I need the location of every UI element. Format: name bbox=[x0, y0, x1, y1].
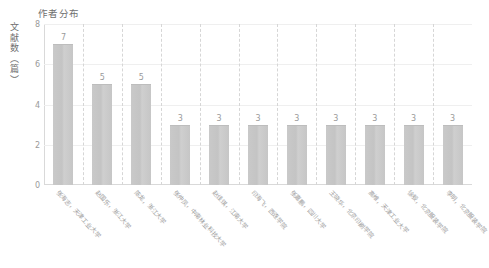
bar-value-label: 3 bbox=[178, 114, 183, 123]
y-tick-label: 6 bbox=[35, 60, 40, 69]
bar-slot: 3 bbox=[316, 24, 355, 185]
plot-area: 02468 75533333333 bbox=[44, 24, 472, 185]
x-axis-labels: 张海志，天津工业大学赵国乐，浙江大学陈龙，浙江大学张仲凤，中南林业科技大学赵佳琪… bbox=[44, 186, 472, 266]
bar-value-label: 3 bbox=[411, 114, 416, 123]
bar-value-label: 5 bbox=[139, 73, 144, 82]
bar-value-label: 3 bbox=[333, 114, 338, 123]
bar-value-label: 3 bbox=[294, 114, 299, 123]
bar[interactable] bbox=[365, 125, 385, 185]
x-tick-label: 李明，北京服装学院 bbox=[444, 188, 489, 235]
bar[interactable] bbox=[209, 125, 229, 185]
y-axis-title-text: 文献数（篇） bbox=[10, 22, 19, 85]
y-tick-label: 0 bbox=[35, 181, 40, 190]
x-tick-label: 赵佳琪，江南大学 bbox=[210, 188, 250, 230]
y-tick-label: 8 bbox=[35, 20, 40, 29]
y-tick-label: 2 bbox=[35, 140, 40, 149]
bar[interactable] bbox=[248, 125, 268, 185]
bar-slot: 5 bbox=[122, 24, 161, 185]
bar-value-label: 7 bbox=[61, 33, 66, 42]
bar-value-label: 3 bbox=[450, 114, 455, 123]
x-tick-label: 印海飞，西连学院 bbox=[249, 188, 289, 230]
bar-slot: 7 bbox=[44, 24, 83, 185]
x-tick-label: 徐毅，北京服装学院 bbox=[405, 188, 450, 235]
bar-slot: 3 bbox=[200, 24, 239, 185]
bar-slot: 3 bbox=[433, 24, 472, 185]
bar[interactable] bbox=[53, 44, 73, 185]
bar[interactable] bbox=[404, 125, 424, 185]
bar-slot: 3 bbox=[277, 24, 316, 185]
bar[interactable] bbox=[326, 125, 346, 185]
bar-slot: 3 bbox=[239, 24, 278, 185]
y-axis-title: 文献数（篇） bbox=[6, 22, 22, 187]
bar[interactable] bbox=[443, 125, 463, 185]
x-tick-label: 高维，天津工业大学 bbox=[366, 188, 411, 235]
bar[interactable] bbox=[92, 84, 112, 185]
bar-slot: 3 bbox=[355, 24, 394, 185]
bar-value-label: 5 bbox=[100, 73, 105, 82]
bar-series: 75533333333 bbox=[44, 24, 472, 185]
bar-value-label: 3 bbox=[372, 114, 377, 123]
y-tick-label: 4 bbox=[35, 100, 40, 109]
bar[interactable] bbox=[131, 84, 151, 185]
x-tick-label: 张嘉鹏，四川大学 bbox=[288, 188, 328, 230]
bar-slot: 3 bbox=[394, 24, 433, 185]
bar-slot: 3 bbox=[161, 24, 200, 185]
x-tick-label: 赵国乐，浙江大学 bbox=[94, 188, 134, 230]
bar-value-label: 3 bbox=[255, 114, 260, 123]
chart-title: 作者分布 bbox=[38, 6, 80, 20]
bar[interactable] bbox=[287, 125, 307, 185]
bar-slot: 5 bbox=[83, 24, 122, 185]
bar-value-label: 3 bbox=[217, 114, 222, 123]
x-tick-label: 陈龙，浙江大学 bbox=[133, 188, 169, 226]
bar[interactable] bbox=[170, 125, 190, 185]
